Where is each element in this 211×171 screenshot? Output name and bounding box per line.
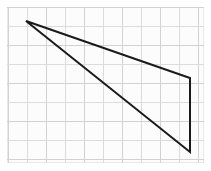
grid-canvas [0, 0, 211, 171]
figure-container: A thin black triangle drawn on a light g… [0, 0, 211, 171]
